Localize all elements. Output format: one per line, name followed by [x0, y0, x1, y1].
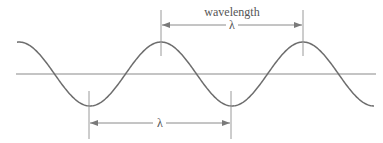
wavelength-label: wavelength: [204, 5, 259, 19]
bottom-lambda-symbol: λ: [157, 116, 163, 130]
top-lambda-symbol: λ: [229, 18, 235, 32]
wavelength-diagram: wavelength λ λ: [0, 0, 383, 143]
top-wavelength-measure: wavelength λ: [161, 5, 303, 56]
bottom-wavelength-measure: λ: [89, 91, 231, 139]
